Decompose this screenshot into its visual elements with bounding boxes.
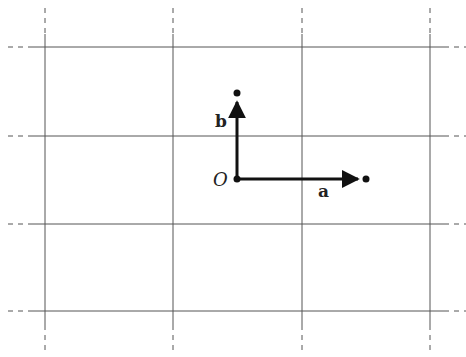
lattice-diagram: a b O bbox=[0, 0, 466, 357]
vector-a: a bbox=[237, 176, 370, 202]
vector-a-label: a bbox=[318, 181, 329, 201]
vector-b-endpoint bbox=[234, 90, 241, 97]
vector-a-endpoint bbox=[363, 176, 370, 183]
origin-label: O bbox=[213, 169, 228, 190]
vector-b: b bbox=[215, 90, 241, 180]
origin-point bbox=[234, 176, 241, 183]
vector-b-label: b bbox=[215, 111, 227, 131]
